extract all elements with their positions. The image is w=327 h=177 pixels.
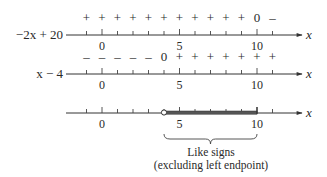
plus-sign: + — [160, 10, 167, 25]
zero-marker: 0 — [254, 10, 261, 25]
plus-sign: + — [98, 10, 105, 25]
plus-sign: + — [238, 49, 245, 64]
tick-label: 10 — [251, 78, 263, 92]
plus-sign: + — [238, 10, 245, 25]
caption-like-signs: Like signs — [187, 146, 235, 159]
number-line-2: x − 4 –––––0+++++++ 0510 x — [36, 49, 312, 92]
minus-sign: – — [268, 10, 276, 25]
sign-chart-diagram: −2x + 20 +++++++++++0– 0510 x x − 4 ––––… — [0, 0, 327, 177]
plus-sign: + — [222, 49, 229, 64]
minus-sign: – — [113, 49, 121, 64]
plus-sign: + — [129, 10, 136, 25]
open-endpoint-icon — [161, 110, 166, 115]
tick-label: 0 — [99, 117, 105, 131]
solution-interval — [161, 107, 257, 115]
axis-variable-label: x — [305, 66, 312, 81]
number-line-solution: 0510 x — [66, 105, 312, 131]
plus-sign: + — [83, 10, 90, 25]
minus-sign: – — [98, 49, 106, 64]
tick-label: 0 — [99, 78, 105, 92]
plus-sign: + — [269, 49, 276, 64]
number-line-1: −2x + 20 +++++++++++0– 0510 x — [16, 10, 312, 53]
minus-sign: – — [129, 49, 137, 64]
plus-sign: + — [222, 10, 229, 25]
tick-label: 5 — [177, 117, 183, 131]
caption-excluding-endpoint: (excluding left endpoint) — [154, 159, 268, 172]
minus-sign: – — [144, 49, 152, 64]
brace-icon — [164, 134, 257, 144]
minus-sign: – — [82, 49, 90, 64]
tick-label: 5 — [177, 78, 183, 92]
interval-bar — [164, 111, 257, 114]
plus-sign: + — [191, 10, 198, 25]
plus-sign: + — [207, 49, 214, 64]
plus-sign: + — [145, 10, 152, 25]
plus-sign: + — [253, 49, 260, 64]
tick-label: 10 — [251, 117, 263, 131]
plus-sign: + — [191, 49, 198, 64]
plus-sign: + — [207, 10, 214, 25]
plus-sign: + — [114, 10, 121, 25]
expression-label: −2x + 20 — [16, 27, 63, 42]
plus-sign: + — [176, 10, 183, 25]
expression-label: x − 4 — [36, 66, 63, 81]
zero-marker: 0 — [161, 49, 168, 64]
plus-sign: + — [176, 49, 183, 64]
axis-variable-label: x — [305, 105, 312, 120]
axis-variable-label: x — [305, 27, 312, 42]
